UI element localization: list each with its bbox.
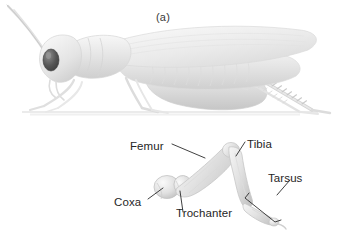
panel-a-caption: (a)	[156, 11, 170, 23]
panel-a-whole-insect: (a)	[0, 0, 343, 125]
compound-eye	[43, 49, 59, 71]
leader-femur	[172, 144, 205, 158]
label-femur: Femur	[130, 140, 164, 152]
label-trochanter: Trochanter	[176, 207, 232, 219]
leg-segment-tarsus	[243, 204, 286, 229]
ground-line	[22, 112, 318, 115]
label-tarsus: Tarsus	[268, 172, 302, 184]
label-tibia: Tibia	[247, 138, 272, 150]
label-coxa: Coxa	[114, 196, 141, 208]
grasshopper-illustration	[0, 0, 343, 125]
figure-grasshopper-anatomy: (a)	[0, 0, 343, 231]
leg-segment-tibia	[229, 147, 253, 208]
